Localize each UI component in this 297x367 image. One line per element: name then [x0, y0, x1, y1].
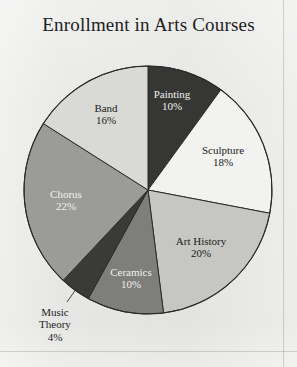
- chart-page: Enrollment in Arts Courses Painting 10% …: [0, 0, 297, 367]
- pie-slice-group: [24, 66, 272, 314]
- leader-line-music-theory: [67, 287, 78, 302]
- leader-line-group: [67, 287, 78, 302]
- pie-chart: [0, 0, 297, 367]
